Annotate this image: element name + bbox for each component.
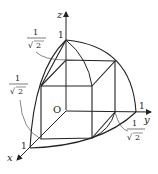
sphere-arc-zx	[30, 40, 66, 148]
svg-text:√: √	[10, 87, 16, 96]
z-one-label: 1	[58, 30, 64, 40]
x-one-label: 1	[21, 141, 27, 151]
callout-line-z	[36, 52, 66, 60]
svg-text:√: √	[127, 133, 133, 142]
svg-text:1: 1	[33, 28, 38, 37]
svg-text:1: 1	[132, 119, 137, 128]
callout-x-value: 1 √ 2	[9, 74, 28, 96]
svg-text:√: √	[28, 41, 34, 50]
cube	[41, 40, 115, 139]
sphere-arc-inner-1	[66, 40, 92, 86]
y-axis-label: y	[143, 114, 150, 125]
callout-line-x	[20, 100, 41, 139]
svg-text:2: 2	[18, 87, 23, 96]
z-axis-label: z	[56, 9, 63, 20]
y-one-label: 1	[139, 101, 145, 111]
origin-label: O	[53, 104, 61, 115]
cube-in-sphere-octant-diagram: z y x O 1 1 1 1 √ 2 1 √ 2 1 √ 2	[0, 0, 158, 174]
svg-text:2: 2	[135, 133, 140, 142]
x-axis-label: x	[7, 152, 13, 163]
sphere-arc-xy	[30, 112, 136, 148]
callout-z-value: 1 √ 2	[27, 28, 46, 50]
y-axis	[66, 111, 151, 112]
svg-text:2: 2	[36, 41, 41, 50]
callout-line-y	[115, 112, 128, 131]
callout-y-value: 1 √ 2	[127, 119, 145, 142]
svg-text:1: 1	[15, 74, 20, 83]
